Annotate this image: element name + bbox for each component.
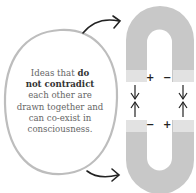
diagram: + − − + Ideas that do not contradict eac… <box>0 0 196 193</box>
top-left-pole-sign: + <box>146 72 154 83</box>
bottom-magnet-right-pole <box>173 120 194 132</box>
bottom-right-pole-sign: + <box>163 119 171 130</box>
caption-line-5: can co-exist in <box>4 113 116 124</box>
caption-line-1: Ideas that <box>31 68 78 78</box>
bottom-left-pole-sign: − <box>146 119 154 130</box>
attraction-arrows <box>131 85 187 117</box>
caption-emphasis-1: do <box>77 68 89 78</box>
caption-line-4: drawn together and <box>4 102 116 113</box>
top-right-pole-sign: − <box>163 72 171 83</box>
caption-line-6: consciousness. <box>4 124 116 135</box>
caption-emphasis-2: not contradict <box>26 79 95 89</box>
top-magnet-right-pole <box>173 70 194 82</box>
bottom-magnet-left-pole <box>126 120 147 132</box>
bubble-caption: Ideas that do not contradict each other … <box>4 68 116 135</box>
caption-line-3: each other are <box>4 90 116 101</box>
top-magnet-left-pole <box>126 70 147 82</box>
